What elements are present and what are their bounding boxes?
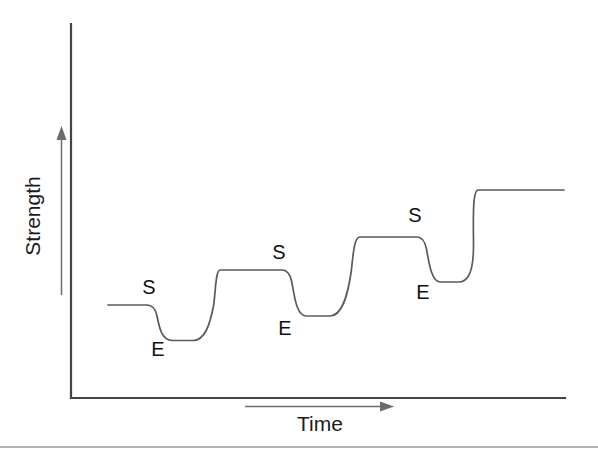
x-axis-title: Time bbox=[297, 412, 343, 435]
strength-curve bbox=[108, 190, 564, 341]
strength-over-time-diagram: Strength Time S E S E S E bbox=[0, 0, 598, 459]
y-axis-title: Strength bbox=[21, 176, 44, 255]
marker-label-e2: E bbox=[278, 317, 291, 339]
marker-label-e3: E bbox=[416, 281, 429, 303]
right-arrow-icon bbox=[245, 402, 394, 412]
marker-label-e1: E bbox=[151, 338, 164, 360]
marker-label-s3: S bbox=[408, 204, 421, 226]
marker-label-s1: S bbox=[142, 276, 155, 298]
up-arrow-icon bbox=[57, 126, 67, 295]
marker-label-s2: S bbox=[272, 241, 285, 263]
figure-page: Strength Time S E S E S E bbox=[0, 0, 598, 459]
